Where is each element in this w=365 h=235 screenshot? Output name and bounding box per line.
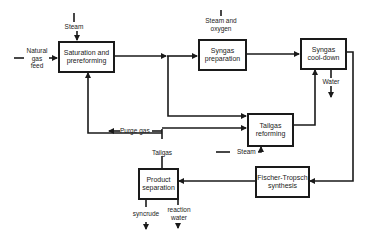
steam-oxygen-line1: Steam and bbox=[203, 17, 239, 25]
recycle-to-saturation-arrow bbox=[88, 73, 162, 133]
saturation-label-line1: Saturation and bbox=[64, 49, 110, 58]
steam-to-tailgas-reforming-arrow bbox=[258, 147, 261, 152]
process-flow-diagram: Saturation andprereforming Syngasprepara… bbox=[0, 0, 365, 235]
ft-label-line2: synthesis bbox=[257, 182, 307, 191]
flow-lines bbox=[0, 0, 365, 235]
tailgas-label: Tailgas bbox=[149, 149, 175, 157]
reaction-water-line1: reaction bbox=[165, 206, 193, 214]
reaction-water-label: reaction water bbox=[165, 206, 193, 221]
natural-gas-line1: Natural bbox=[24, 47, 50, 55]
tailgas-reforming-label-line1: Tailgas bbox=[256, 122, 286, 131]
syngas-preparation-box: Syngaspreparation bbox=[198, 39, 247, 71]
tailgas-reforming-box: Tailgasreforming bbox=[247, 113, 294, 147]
syngas-cool-label-line2: cool-down bbox=[308, 54, 340, 63]
water-label: Water bbox=[320, 78, 342, 86]
product-sep-label-line2: separation bbox=[142, 184, 175, 193]
natural-gas-feed-label: Natural gas feed bbox=[24, 47, 50, 70]
reaction-water-line2: water bbox=[165, 214, 193, 222]
purge-gas-label: Purge gas bbox=[120, 127, 150, 135]
tailgas-reforming-label-line2: reforming bbox=[256, 130, 286, 139]
steam-bottom-label: Steam bbox=[237, 148, 256, 156]
syngas-cooldown-box: Syngascool-down bbox=[300, 38, 347, 70]
steam-and-oxygen-label: Steam and oxygen bbox=[203, 17, 239, 32]
syngas-prep-label-line1: Syngas bbox=[205, 47, 240, 56]
saturation-prereforming-box: Saturation andprereforming bbox=[58, 41, 115, 73]
saturation-label-line2: prereforming bbox=[64, 57, 110, 66]
steam-oxygen-line2: oxygen bbox=[203, 25, 239, 33]
syngas-prep-label-line2: preparation bbox=[205, 55, 240, 64]
fischer-tropsch-box: Fischer-Tropschsynthesis bbox=[255, 166, 310, 198]
syngas-cool-label-line1: Syngas bbox=[308, 46, 340, 55]
steam-top-label: Steam bbox=[63, 23, 85, 31]
natural-gas-line3: feed bbox=[24, 62, 50, 70]
tailgas-reforming-to-cooldown-arrow bbox=[293, 70, 315, 125]
syncrude-label: syncrude bbox=[131, 210, 161, 218]
natural-gas-line2: gas bbox=[24, 55, 50, 63]
product-separation-box: Productseparation bbox=[138, 168, 179, 200]
product-sep-label-line1: Product bbox=[142, 176, 175, 185]
ft-label-line1: Fischer-Tropsch bbox=[257, 174, 307, 183]
